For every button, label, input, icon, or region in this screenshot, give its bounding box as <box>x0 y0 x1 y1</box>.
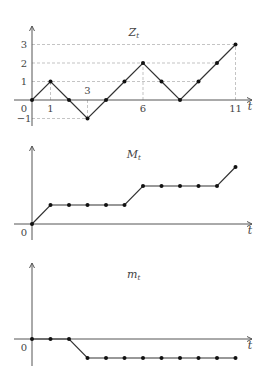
chart-title: Mt <box>126 148 141 162</box>
data-point <box>178 184 182 188</box>
origin-label: 0 <box>21 342 27 353</box>
x-axis-label: t <box>248 100 253 113</box>
data-point <box>123 80 127 84</box>
data-point <box>67 337 71 341</box>
data-point <box>141 61 145 65</box>
data-point <box>86 356 90 360</box>
x-axis-label: t <box>248 339 253 352</box>
random-walk-figure: Ztt0321−113611Mtt0mtt0 <box>0 0 267 387</box>
data-point <box>234 43 238 47</box>
panel-max: Mtt0 <box>14 146 253 240</box>
data-point <box>215 184 219 188</box>
data-point <box>160 184 164 188</box>
data-point <box>160 356 164 360</box>
data-point <box>234 356 238 360</box>
data-point <box>104 98 108 102</box>
data-point <box>160 80 164 84</box>
chart-title: Zt <box>128 26 140 40</box>
y-tick-label: 3 <box>21 39 27 50</box>
data-point <box>141 184 145 188</box>
data-point <box>49 80 53 84</box>
data-point <box>104 356 108 360</box>
x-tick-label: 11 <box>229 103 242 114</box>
data-point <box>30 222 34 226</box>
data-point <box>86 203 90 207</box>
data-point <box>67 203 71 207</box>
x-tick-label: 1 <box>47 103 53 114</box>
data-point <box>197 80 201 84</box>
data-point <box>104 203 108 207</box>
data-point <box>234 165 238 169</box>
data-point <box>30 98 34 102</box>
x-axis-label: t <box>248 224 253 237</box>
x-tick-label: 6 <box>140 103 146 114</box>
data-point <box>215 356 219 360</box>
data-point <box>123 203 127 207</box>
data-point <box>49 203 53 207</box>
data-point <box>123 356 127 360</box>
x-tick-label: 3 <box>84 85 90 96</box>
data-point <box>197 356 201 360</box>
series-line <box>32 167 236 224</box>
y-tick-label: 2 <box>21 58 27 69</box>
data-point <box>86 117 90 121</box>
data-point <box>49 337 53 341</box>
data-point <box>30 337 34 341</box>
chart-title: mt <box>127 268 140 282</box>
data-point <box>178 98 182 102</box>
data-point <box>215 61 219 65</box>
panel-min: mtt0 <box>14 263 253 366</box>
panel-z: Ztt0321−113611 <box>14 26 253 126</box>
y-tick-label: −1 <box>17 113 32 124</box>
origin-label: 0 <box>21 227 27 238</box>
series-line <box>32 339 236 358</box>
y-tick-label: 1 <box>21 76 27 87</box>
data-point <box>197 184 201 188</box>
data-point <box>67 98 71 102</box>
data-point <box>178 356 182 360</box>
data-point <box>141 356 145 360</box>
